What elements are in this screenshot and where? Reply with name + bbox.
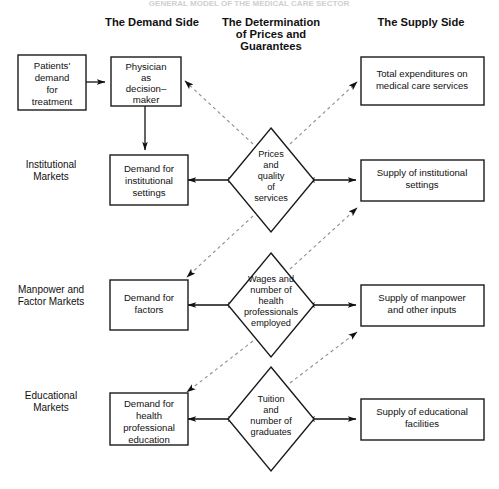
node-supply-educational-line-2: facilities: [405, 418, 439, 429]
node-wages-number-line-4: professionals: [244, 307, 299, 317]
node-wages-number-line-2: number of: [250, 285, 292, 295]
row-label-manpower-factor-markets-line-2: Factor Markets: [18, 296, 85, 307]
node-demand-institutional-line-1: Demand for: [124, 163, 175, 174]
node-tuition-graduates-line-4: graduates: [251, 427, 292, 437]
node-patients-demand[interactable]: Patients' demand for treatment: [18, 55, 86, 110]
node-prices-quality-line-3: quality: [258, 171, 285, 181]
node-tuition-graduates-line-1: Tuition: [257, 394, 284, 404]
node-wages-number-line-1: Wages and: [248, 274, 294, 284]
node-prices-quality-line-4: of: [267, 182, 275, 192]
edge-wages-to-supply-institutional: [290, 208, 357, 269]
row-label-educational-markets: Educational Markets: [25, 390, 77, 413]
node-tuition-graduates[interactable]: Tuition and number of graduates: [228, 367, 314, 471]
node-supply-institutional-line-1: Supply of institutional: [377, 167, 468, 178]
row-label-manpower-factor-markets: Manpower and Factor Markets: [18, 284, 85, 307]
node-demand-factors[interactable]: Demand for factors: [110, 280, 188, 330]
column-heading-supply-side: The Supply Side: [377, 16, 464, 28]
node-supply-educational[interactable]: Supply of educational facilities: [361, 399, 484, 440]
row-label-educational-markets-line-2: Markets: [33, 402, 69, 413]
node-total-expenditures[interactable]: Total expenditures on medical care servi…: [361, 57, 484, 105]
edge-prices-to-total-expenditures: [290, 82, 357, 144]
node-prices-quality-line-2: and: [263, 160, 278, 170]
node-demand-factors-line-2: factors: [135, 304, 164, 315]
row-label-institutional-markets: Institutional Markets: [26, 159, 77, 182]
node-demand-factors-line-1: Demand for: [124, 292, 175, 303]
node-physician-line-3: decision–: [126, 83, 167, 94]
node-wages-number[interactable]: Wages and number of health professionals…: [228, 253, 314, 357]
node-patients-demand-line-2: demand: [35, 72, 70, 83]
node-tuition-graduates-line-2: and: [263, 405, 278, 415]
edge-prices-to-demand-factors: [187, 216, 253, 277]
node-supply-manpower-line-1: Supply of manpower: [378, 292, 466, 303]
node-physician[interactable]: Physician as decision– maker: [111, 57, 181, 106]
column-heading-demand-side-line-1: The Demand Side: [105, 16, 199, 28]
node-supply-manpower-line-2: and other inputs: [388, 304, 457, 315]
column-heading-determination-line-1: The Determination: [222, 16, 320, 28]
flow-diagram-canvas: GENERAL MODEL OF THE MEDICAL CARE SECTOR…: [0, 0, 499, 489]
node-demand-education-line-1: Demand for: [124, 398, 175, 409]
node-patients-demand-line-4: treatment: [32, 96, 73, 107]
column-heading-determination-line-3: Guarantees: [240, 40, 302, 52]
node-wages-number-line-5: employed: [251, 318, 291, 328]
node-supply-institutional-line-2: settings: [405, 179, 438, 190]
node-demand-education-line-4: education: [128, 434, 170, 445]
node-patients-demand-line-3: for: [46, 84, 58, 95]
node-total-expenditures-line-1: Total expenditures on: [376, 68, 467, 79]
row-label-educational-markets-line-1: Educational: [25, 390, 77, 401]
node-demand-education[interactable]: Demand for health professional education: [110, 393, 188, 445]
node-wages-number-line-3: health: [258, 296, 283, 306]
column-heading-supply-side-line-1: The Supply Side: [377, 16, 464, 28]
node-demand-institutional-line-3: settings: [132, 187, 165, 198]
node-tuition-graduates-line-3: number of: [250, 416, 292, 426]
page-title: GENERAL MODEL OF THE MEDICAL CARE SECTOR: [149, 0, 350, 8]
node-prices-quality-line-5: services: [254, 193, 288, 203]
node-prices-quality-line-1: Prices: [258, 149, 284, 159]
row-label-manpower-factor-markets-line-1: Manpower and: [18, 284, 84, 295]
edge-tuition-to-supply-manpower: [290, 332, 357, 383]
node-supply-educational-line-1: Supply of educational: [376, 406, 468, 417]
node-demand-institutional-line-2: institutional: [125, 175, 173, 186]
node-total-expenditures-line-2: medical care services: [376, 80, 468, 91]
node-physician-line-1: Physician: [125, 61, 166, 72]
column-heading-determination-line-2: of Prices and: [236, 28, 306, 40]
node-demand-education-line-3: professional: [123, 422, 175, 433]
node-demand-education-line-2: health: [136, 410, 162, 421]
node-supply-manpower[interactable]: Supply of manpower and other inputs: [361, 285, 484, 326]
row-label-institutional-markets-line-1: Institutional: [26, 159, 77, 170]
node-prices-quality[interactable]: Prices and quality of services: [228, 128, 314, 232]
node-physician-line-2: as: [141, 72, 151, 83]
row-label-institutional-markets-line-2: Markets: [33, 171, 69, 182]
column-heading-determination: The Determination of Prices and Guarante…: [222, 16, 320, 52]
column-heading-demand-side: The Demand Side: [105, 16, 199, 28]
node-demand-institutional[interactable]: Demand for institutional settings: [110, 155, 188, 205]
node-physician-line-4: maker: [133, 94, 160, 105]
medical-care-sector-diagram: GENERAL MODEL OF THE MEDICAL CARE SECTOR…: [0, 0, 499, 489]
edge-prices-to-physician: [185, 81, 253, 144]
node-patients-demand-line-1: Patients': [34, 60, 71, 71]
node-supply-institutional[interactable]: Supply of institutional settings: [361, 160, 484, 201]
edge-wages-to-demand-education: [187, 341, 253, 392]
